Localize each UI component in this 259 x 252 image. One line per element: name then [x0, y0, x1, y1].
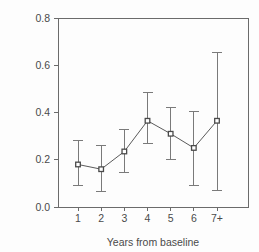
y-tick-label: 0.2: [35, 153, 50, 165]
x-tick-label: 1: [75, 212, 81, 224]
x-tick-label: 5: [168, 212, 174, 224]
data-point-marker: [145, 118, 150, 123]
y-tick-label: 0.8: [35, 12, 50, 24]
y-tick-label: 0.6: [35, 59, 50, 71]
x-tick-label: 7+: [211, 212, 223, 224]
y-tick-label: 0.0: [35, 201, 50, 213]
y-tick-label: 0.4: [35, 106, 50, 118]
x-tick-label: 4: [145, 212, 151, 224]
error-bar-line-chart: 0.00.20.40.60.8 1234567+ Years from base…: [0, 0, 259, 252]
data-point-marker: [192, 146, 197, 151]
data-point-marker: [215, 118, 220, 123]
plot-frame: [58, 18, 248, 207]
plot-box-border: [58, 18, 248, 207]
figure-container: 0.00.20.40.60.8 1234567+ Years from base…: [0, 0, 259, 252]
x-tick-label: 2: [98, 212, 104, 224]
data-point-marker: [76, 162, 81, 167]
data-point-marker: [168, 131, 173, 136]
data-point-marker: [99, 167, 104, 172]
y-axis-ticks: 0.00.20.40.60.8: [35, 12, 58, 213]
x-axis-title: Years from baseline: [107, 236, 200, 248]
x-tick-label: 6: [191, 212, 197, 224]
data-point-marker: [122, 149, 127, 154]
x-axis-ticks: 1234567+: [75, 207, 223, 224]
x-tick-label: 3: [121, 212, 127, 224]
